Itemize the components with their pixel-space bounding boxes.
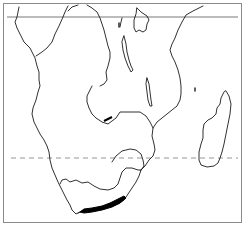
map-frame: [0, 0, 246, 228]
southern-africa-map: [0, 0, 246, 228]
map-border: [4, 4, 242, 223]
